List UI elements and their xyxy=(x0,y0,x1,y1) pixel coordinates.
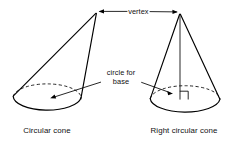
base-label-line-1: circle for xyxy=(107,68,136,77)
cone-diagram-figure: vertex circle for base Circular cone Rig… xyxy=(0,0,230,143)
cone-diagram-canvas: vertex circle for base Circular cone Rig… xyxy=(0,0,230,143)
vertex-label: vertex xyxy=(128,7,149,16)
caption-right-circular-cone: Right circular cone xyxy=(151,126,218,135)
caption-left-circular-cone: Circular cone xyxy=(23,126,71,135)
base-label-line-2: base xyxy=(113,77,129,86)
